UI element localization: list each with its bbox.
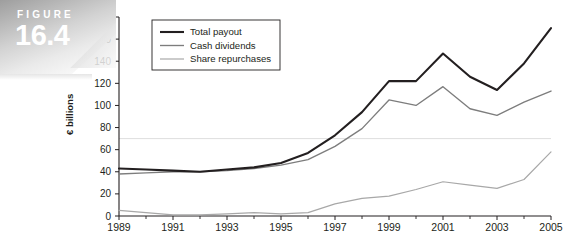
y-tick-label-160: 160 [94,34,111,45]
legend-label-cash-dividends: Cash dividends [190,40,256,51]
x-tick-label-1993: 1993 [215,221,239,233]
y-tick-label-120: 120 [94,78,111,89]
legend-label-share-repurchases: Share repurchases [190,53,271,64]
line-chart-svg: 020406080100120140160180 198919911993199… [0,0,563,246]
x-tick-label-2005: 2005 [539,221,563,233]
y-axis-labels: 020406080100120140160180 [94,12,111,222]
chart-canvas: 020406080100120140160180 198919911993199… [0,0,563,246]
y-tick-label-40: 40 [100,166,112,177]
legend-label-total-payout: Total payout [190,26,242,37]
x-tick-label-1999: 1999 [377,221,401,233]
x-tick-label-1991: 1991 [161,221,185,233]
x-tick-label-1995: 1995 [269,221,293,233]
figure-root: 020406080100120140160180 198919911993199… [0,0,563,246]
x-tick-label-1997: 1997 [323,221,347,233]
x-axis-ticks [119,216,551,220]
y-tick-label-0: 0 [105,211,111,222]
x-axis-labels: 198919911993199519971999200120032005 [107,221,563,233]
x-tick-label-1989: 1989 [107,221,131,233]
y-axis-ticks [115,17,119,216]
y-tick-label-180: 180 [94,12,111,23]
y-tick-label-100: 100 [94,100,111,111]
x-tick-label-2003: 2003 [485,221,509,233]
x-tick-label-2001: 2001 [431,221,455,233]
series-line-share-repurchases [119,152,551,215]
y-tick-label-80: 80 [100,122,112,133]
y-tick-label-140: 140 [94,56,111,67]
series-line-cash-dividends [119,87,551,174]
y-tick-label-60: 60 [100,144,112,155]
y-tick-label-20: 20 [100,188,112,199]
chart-legend: Total payout Cash dividends Share repurc… [152,20,280,70]
y-axis-title: € billions [64,94,75,135]
